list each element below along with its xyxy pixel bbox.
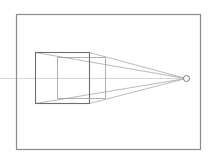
background — [0, 0, 212, 162]
diagram-svg — [0, 0, 212, 162]
vanishing-point-marker — [184, 76, 190, 82]
perspective-diagram — [0, 0, 212, 162]
